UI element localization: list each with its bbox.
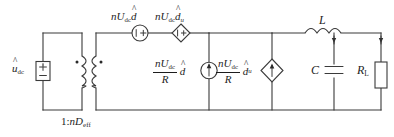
input-voltage-source <box>36 62 50 81</box>
circuit-diagram: udc 1:nDeff nUdcd nUdcdu nUdc R d nUdc R… <box>0 0 394 137</box>
inductor-L <box>305 29 341 34</box>
dependent-voltage-source-du <box>172 24 190 42</box>
dependent-current-source-du <box>261 59 283 82</box>
dependent-current-source-du-label: nUdc R du <box>216 58 252 85</box>
transformer <box>76 56 103 88</box>
current-source-d <box>201 62 217 78</box>
capacitor-C <box>325 67 343 74</box>
transformer-dot-secondary <box>100 61 103 64</box>
inductor-label: L <box>319 14 326 26</box>
circuit-schematic-canvas <box>0 0 394 137</box>
transformer-ratio-label: 1:nDeff <box>61 116 91 129</box>
voltage-source-d-label: nUdcd <box>111 11 137 24</box>
load-resistor-RL <box>375 62 387 88</box>
dependent-voltage-source-du-label: nUdcdu <box>155 11 184 24</box>
capacitor-label: C <box>311 64 319 76</box>
input-source-label: udc <box>12 63 24 76</box>
branch-arrow-markers <box>332 36 383 44</box>
current-source-d-label: nUdc R d <box>153 58 185 85</box>
load-resistor-label: RL <box>357 64 369 78</box>
voltage-source-d <box>132 25 148 41</box>
transformer-dot-primary <box>76 61 79 64</box>
